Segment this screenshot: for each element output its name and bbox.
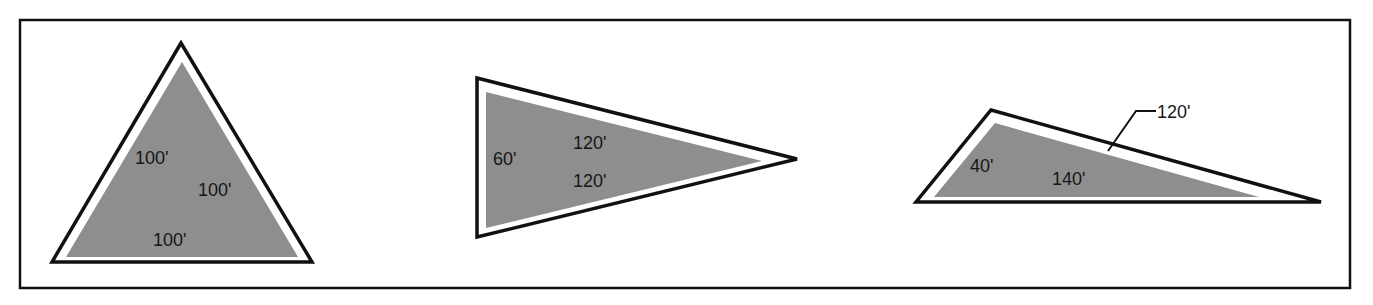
triangle-scalene: 40' 140' 120' bbox=[916, 102, 1321, 202]
side-label: 140' bbox=[1052, 169, 1085, 189]
triangle-equilateral: 100' 100' 100' bbox=[52, 43, 312, 262]
triangle-isosceles: 60' 120' 120' bbox=[477, 78, 797, 237]
triangle-equilateral-fill bbox=[66, 62, 298, 257]
side-label: 120' bbox=[573, 133, 606, 153]
triangle-isosceles-fill bbox=[486, 92, 762, 228]
side-label: 100' bbox=[153, 230, 186, 250]
side-label: 100' bbox=[198, 180, 231, 200]
triangles-diagram: 100' 100' 100' 60' 120' 120' 40' 140' 12… bbox=[0, 0, 1373, 305]
leader-label: 120' bbox=[1157, 102, 1190, 122]
side-label: 100' bbox=[135, 148, 168, 168]
side-label: 60' bbox=[493, 149, 516, 169]
side-label: 120' bbox=[573, 171, 606, 191]
side-label: 40' bbox=[970, 156, 993, 176]
